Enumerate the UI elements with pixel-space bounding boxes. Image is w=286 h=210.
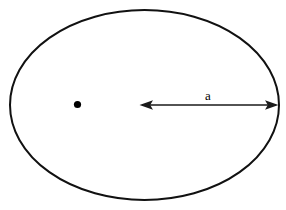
ellipse-diagram-canvas: a — [0, 0, 286, 210]
ellipse-diagram: a — [0, 0, 286, 210]
focus-point-dot — [74, 101, 81, 108]
semi-major-axis-label: a — [205, 88, 211, 103]
